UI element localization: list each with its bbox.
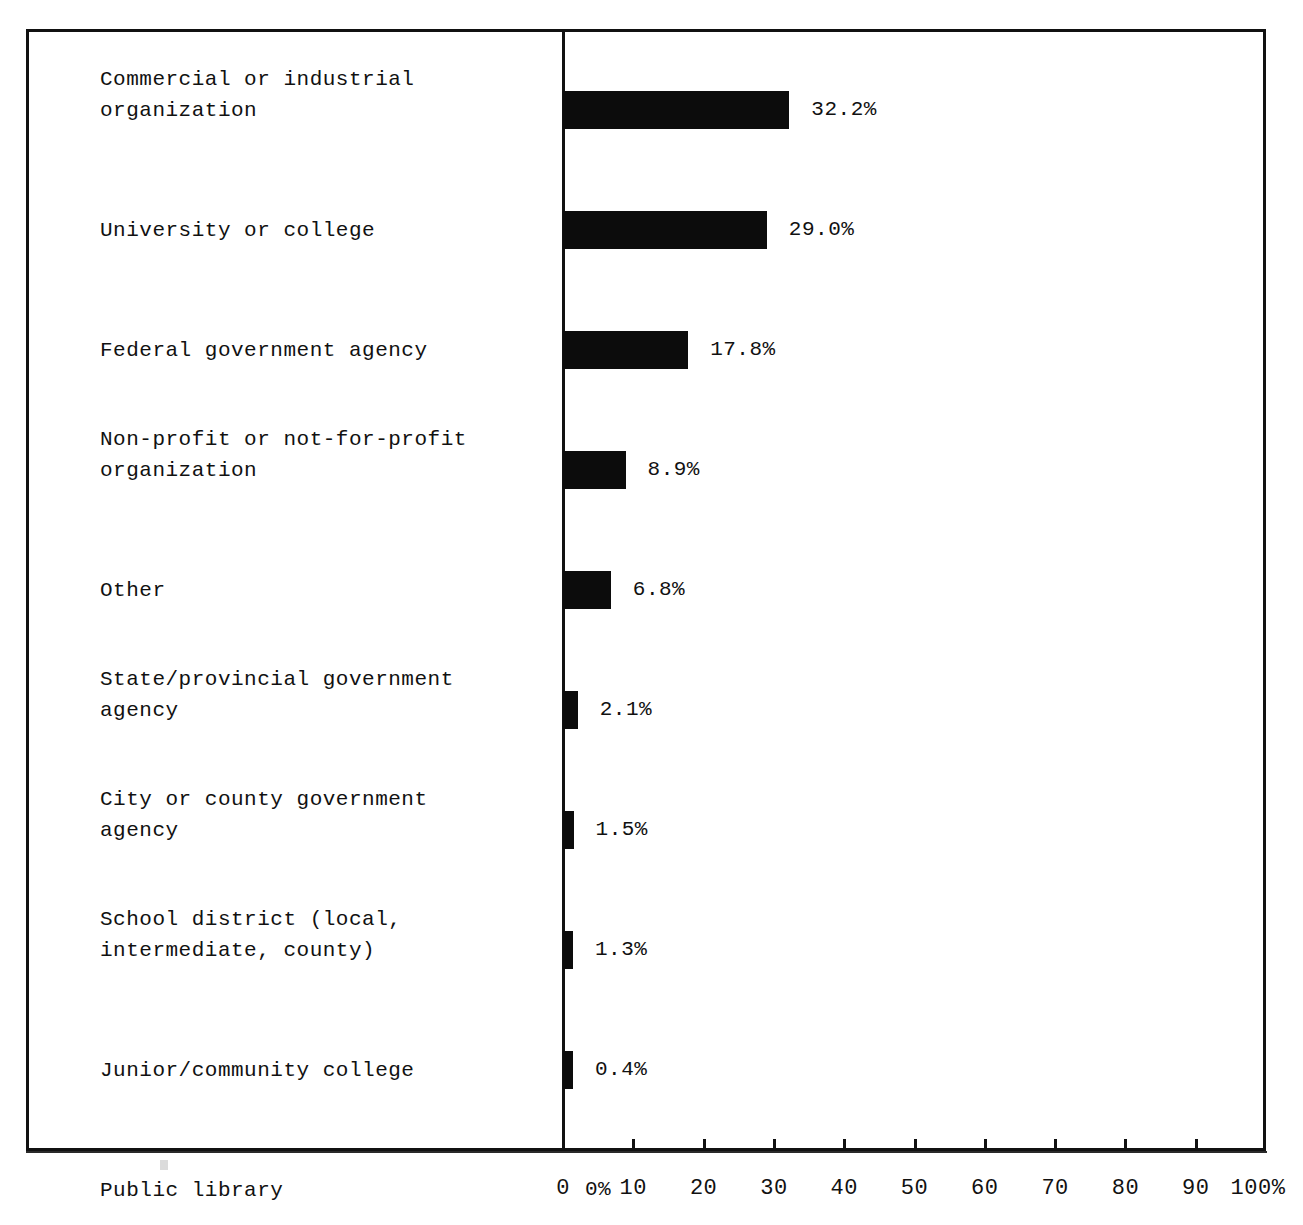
bar-row: State/provincial government agency2.1%	[0, 650, 1303, 770]
bar	[563, 571, 611, 609]
bar-value-label: 17.8%	[710, 336, 776, 364]
x-axis-tick-label: 30	[760, 1176, 787, 1202]
x-axis-tick	[1124, 1139, 1127, 1151]
bar-value-label: 2.1%	[600, 696, 652, 724]
x-axis-tick-label: 10	[620, 1176, 647, 1202]
bar-row: Commercial or industrial organization32.…	[0, 50, 1303, 170]
bar-row: Federal government agency17.8%	[0, 290, 1303, 410]
bar	[563, 211, 767, 249]
bar	[563, 691, 578, 729]
x-axis-tick	[1195, 1139, 1198, 1151]
category-label: University or college	[100, 215, 550, 246]
bar-value-label: 1.5%	[596, 816, 648, 844]
bar-row: Non-profit or not-for-profit organizatio…	[0, 410, 1303, 530]
category-label: Other	[100, 575, 550, 606]
bar-value-label: 0%	[585, 1176, 611, 1204]
x-axis-tick-label: 0	[556, 1176, 570, 1202]
bar-value-label: 1.3%	[595, 936, 647, 964]
x-axis-left-extension	[26, 1151, 563, 1153]
x-axis-tick	[984, 1139, 987, 1151]
x-axis-tick	[632, 1139, 635, 1151]
x-axis-tick	[773, 1139, 776, 1151]
x-axis-tick	[703, 1139, 706, 1151]
x-axis-tick-label: 80	[1112, 1176, 1139, 1202]
x-axis-tick-label: 100%	[1231, 1176, 1286, 1202]
x-axis-tick-label: 20	[690, 1176, 717, 1202]
bar	[563, 331, 688, 369]
bar	[563, 1051, 573, 1089]
bar-value-label: 8.9%	[648, 456, 700, 484]
bar-row: Public library0%	[0, 1130, 1303, 1225]
category-label: Junior/community college	[100, 1055, 550, 1086]
bar-value-label: 29.0%	[789, 216, 855, 244]
x-axis-tick	[914, 1139, 917, 1151]
bar	[563, 931, 573, 969]
bar-value-label: 0.4%	[595, 1056, 647, 1084]
x-axis-tick-label: 60	[971, 1176, 998, 1202]
category-label: State/provincial government agency	[100, 664, 550, 726]
x-axis-tick-label: 40	[830, 1176, 857, 1202]
category-label: Federal government agency	[100, 335, 550, 366]
x-axis-tick	[843, 1139, 846, 1151]
bar-value-label: 6.8%	[633, 576, 685, 604]
bar-value-label: 32.2%	[811, 96, 877, 124]
bar-row: School district (local, intermediate, co…	[0, 890, 1303, 1010]
x-axis-tick-label: 90	[1182, 1176, 1209, 1202]
x-axis-tick-label: 70	[1041, 1176, 1068, 1202]
bar-row: Other6.8%	[0, 530, 1303, 650]
x-axis-line	[563, 1151, 1267, 1153]
category-label: City or county government agency	[100, 784, 550, 846]
category-label: Public library	[100, 1175, 550, 1206]
category-label: Commercial or industrial organization	[100, 64, 550, 126]
category-label: Non-profit or not-for-profit organizatio…	[100, 424, 550, 486]
bar-row: University or college29.0%	[0, 170, 1303, 290]
bar-row: Junior/community college0.4%	[0, 1010, 1303, 1130]
x-axis-tick-label: 50	[901, 1176, 928, 1202]
bar	[563, 811, 574, 849]
bar	[563, 91, 789, 129]
bar	[563, 451, 626, 489]
x-axis-tick	[1054, 1139, 1057, 1151]
bar-row: City or county government agency1.5%	[0, 770, 1303, 890]
category-label: School district (local, intermediate, co…	[100, 904, 550, 966]
